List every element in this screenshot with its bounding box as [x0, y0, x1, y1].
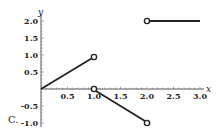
- x-tick-label: 2.0: [140, 91, 154, 101]
- open-circle-marker: [144, 120, 149, 125]
- open-circle-marker: [144, 18, 149, 23]
- segment-1-line: [41, 59, 92, 90]
- open-circle-marker: [91, 54, 96, 59]
- y-tick-label: 0.5: [24, 67, 38, 77]
- x-tick-label: 1.5: [114, 91, 128, 101]
- y-tick-label: 2.0: [24, 16, 38, 26]
- x-tick-label: 2.5: [167, 91, 181, 101]
- x-tick-label: 3.0: [193, 91, 207, 101]
- x-tick-label: 0.5: [61, 91, 75, 101]
- y-tick-label: -1.0: [21, 118, 39, 128]
- option-label: C.: [8, 114, 18, 125]
- open-circle-marker: [91, 86, 96, 91]
- piecewise-function-chart: y x 2.0 1.5 1.0 0.5 -0.5 -1.0 0.5 1.0 1.…: [0, 0, 220, 135]
- y-tick-label: 1.0: [24, 50, 38, 60]
- y-tick-label: 1.5: [24, 33, 38, 43]
- y-tick-label: -0.5: [21, 101, 38, 111]
- y-axis-label: y: [37, 7, 44, 17]
